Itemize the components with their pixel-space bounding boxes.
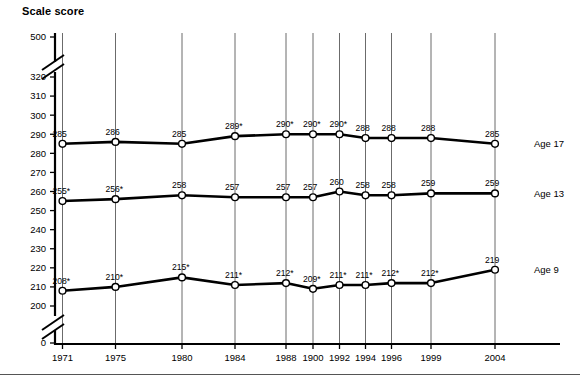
- data-label-age-17-1994: 288: [356, 123, 371, 133]
- axis-break-lower-slash-1: [42, 315, 64, 330]
- data-label-age-17-1984: 289*: [225, 121, 243, 131]
- y-tick-label-240: 240: [30, 224, 46, 235]
- data-point-age-17-1999[interactable]: [428, 135, 435, 142]
- data-label-age-13-1971: 255*: [53, 186, 71, 196]
- series-label-age-9: Age 9: [534, 264, 559, 275]
- data-point-age-13-1971[interactable]: [59, 198, 66, 205]
- data-label-age-17-1975: 286: [106, 127, 121, 137]
- y-tick-label-280: 280: [30, 148, 46, 159]
- data-point-age-9-2004[interactable]: [492, 266, 499, 273]
- data-point-age-17-1994[interactable]: [362, 135, 369, 142]
- data-point-age-17-1975[interactable]: [112, 138, 119, 145]
- data-point-age-9-1975[interactable]: [112, 284, 119, 291]
- data-point-age-13-1900[interactable]: [310, 194, 317, 201]
- series-age-9: 208*210*215*211*212*209*211*211*212*212*…: [53, 255, 559, 294]
- y-tick-label-500: 500: [30, 31, 46, 42]
- data-label-age-13-1980: 258: [172, 180, 187, 190]
- x-tick-label-1999: 1999: [420, 352, 441, 363]
- data-point-age-13-1996[interactable]: [388, 192, 395, 199]
- y-tick-label-320: 320: [30, 71, 46, 82]
- x-tick-label-1992: 1992: [329, 352, 350, 363]
- x-tick-label-1988: 1988: [275, 352, 296, 363]
- data-point-age-9-1996[interactable]: [388, 280, 395, 287]
- data-point-age-13-1984[interactable]: [232, 194, 239, 201]
- data-label-age-9-1996: 212*: [382, 268, 400, 278]
- data-label-age-9-1984: 211*: [225, 270, 243, 280]
- y-tick-label-220: 220: [30, 262, 46, 273]
- data-point-age-17-1988[interactable]: [283, 131, 290, 138]
- x-tick-label-1984: 1984: [224, 352, 245, 363]
- data-label-age-13-1988: 257: [276, 182, 291, 192]
- data-point-age-13-2004[interactable]: [492, 190, 499, 197]
- data-label-age-17-1900: 290*: [303, 119, 321, 129]
- series-age-17: 285286285289*290*290*290*288288288285Age…: [53, 119, 565, 149]
- data-point-age-17-1996[interactable]: [388, 135, 395, 142]
- y-tick-label-290: 290: [30, 129, 46, 140]
- data-label-age-17-2004: 285: [485, 129, 500, 139]
- data-label-age-9-1971: 208*: [53, 276, 71, 286]
- x-tick-label-1975: 1975: [105, 352, 126, 363]
- y-tick-label-200: 200: [30, 300, 46, 311]
- line-chart-plot: 5003203103002902802702602502402302202102…: [0, 0, 580, 386]
- x-tick-label-1980: 1980: [171, 352, 192, 363]
- data-label-age-17-1999: 288: [421, 123, 436, 133]
- x-tick-label-1971: 1971: [52, 352, 73, 363]
- data-point-age-17-1900[interactable]: [310, 131, 317, 138]
- data-label-age-9-1975: 210*: [106, 272, 124, 282]
- series-age-13: 255*256*258257257257260258258259259Age 1…: [53, 177, 565, 205]
- data-label-age-17-1988: 290*: [276, 119, 294, 129]
- data-point-age-17-1980[interactable]: [179, 140, 186, 147]
- data-label-age-13-1975: 256*: [106, 184, 124, 194]
- data-label-age-17-1980: 285: [172, 129, 187, 139]
- axis-break-upper-slash-1: [42, 55, 64, 70]
- data-point-age-9-1992[interactable]: [336, 282, 343, 289]
- data-point-age-9-1999[interactable]: [428, 280, 435, 287]
- data-label-age-9-1988: 212*: [276, 268, 294, 278]
- data-label-age-13-1900: 257: [303, 182, 318, 192]
- data-label-age-13-1999: 259: [421, 178, 436, 188]
- data-label-age-13-1994: 258: [356, 180, 371, 190]
- data-point-age-9-1984[interactable]: [232, 282, 239, 289]
- y-tick-label-270: 270: [30, 167, 46, 178]
- data-label-age-9-1994: 211*: [356, 270, 374, 280]
- data-point-age-9-1900[interactable]: [310, 285, 317, 292]
- data-label-age-9-1900: 209*: [303, 274, 321, 284]
- series-label-age-13: Age 13: [534, 188, 564, 199]
- data-point-age-9-1971[interactable]: [59, 287, 66, 294]
- y-tick-label-210: 210: [30, 281, 46, 292]
- data-label-age-9-1999: 212*: [421, 268, 439, 278]
- data-point-age-13-1992[interactable]: [336, 188, 343, 195]
- data-point-age-17-1984[interactable]: [232, 133, 239, 140]
- data-point-age-17-2004[interactable]: [492, 140, 499, 147]
- x-tick-label-1900: 1900: [302, 352, 323, 363]
- footer-divider: [0, 374, 580, 375]
- data-point-age-9-1994[interactable]: [362, 282, 369, 289]
- y-tick-label-300: 300: [30, 110, 46, 121]
- data-point-age-13-1988[interactable]: [283, 194, 290, 201]
- data-label-age-9-1980: 215*: [172, 262, 190, 272]
- y-tick-label-260: 260: [30, 186, 46, 197]
- data-label-age-17-1992: 290*: [330, 119, 348, 129]
- y-tick-label-310: 310: [30, 90, 46, 101]
- data-label-age-13-1984: 257: [225, 182, 240, 192]
- data-point-age-13-1980[interactable]: [179, 192, 186, 199]
- x-tick-label-1996: 1996: [381, 352, 402, 363]
- data-point-age-13-1999[interactable]: [428, 190, 435, 197]
- x-tick-label-2004: 2004: [484, 352, 505, 363]
- data-label-age-13-1996: 258: [382, 180, 397, 190]
- y-tick-label-250: 250: [30, 205, 46, 216]
- x-tick-label-1994: 1994: [355, 352, 376, 363]
- data-point-age-17-1992[interactable]: [336, 131, 343, 138]
- data-label-age-9-2004: 219: [485, 255, 500, 265]
- data-point-age-13-1994[interactable]: [362, 192, 369, 199]
- data-label-age-13-2004: 259: [485, 178, 500, 188]
- data-point-age-13-1975[interactable]: [112, 196, 119, 203]
- data-point-age-9-1980[interactable]: [179, 274, 186, 281]
- y-tick-label-230: 230: [30, 243, 46, 254]
- data-label-age-13-1992: 260: [330, 177, 345, 187]
- data-label-age-9-1992: 211*: [330, 270, 348, 280]
- data-label-age-17-1971: 285: [53, 129, 68, 139]
- data-point-age-9-1988[interactable]: [283, 280, 290, 287]
- data-label-age-17-1996: 288: [382, 123, 397, 133]
- data-point-age-17-1971[interactable]: [59, 140, 66, 147]
